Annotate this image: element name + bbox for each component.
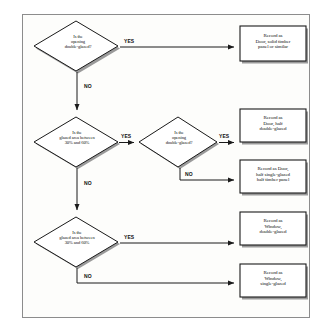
- edge-label-d1-no: NO: [84, 83, 92, 89]
- edge-label-d2-yes: YES: [121, 133, 131, 139]
- decision-label-d2: Is the glazed area between 30% and 60%: [30, 130, 124, 145]
- decision-line: 30% and 60%: [30, 140, 124, 145]
- result-line: double-glazed: [240, 229, 306, 235]
- result-label-r4: Record as Window, double-glazed: [240, 218, 306, 235]
- decision-label-d1: Is the opening double-glazed?: [36, 34, 120, 49]
- edge-label-d4-no: NO: [84, 273, 92, 279]
- result-label-r2: Record as Door, half double-glazed: [240, 115, 306, 132]
- result-line: double-glazed: [240, 126, 306, 132]
- result-line: half timber panel: [239, 177, 307, 183]
- decision-line: double-glazed?: [36, 44, 120, 49]
- decision-label-d3: Is the opening double-glazed?: [139, 130, 219, 145]
- result-label-r1: Record as Door, solid timber panel or si…: [240, 33, 306, 50]
- decision-label-d4: Is the glazed area between 30% and 60%: [30, 230, 124, 245]
- edge-label-d4-yes: YES: [124, 234, 134, 240]
- edge-d4-no: [77, 268, 234, 283]
- decision-line: 30% and 60%: [30, 240, 124, 245]
- result-label-r5: Record as Window, single-glazed: [240, 270, 306, 287]
- decision-line: double-glazed?: [139, 140, 219, 145]
- edge-label-d1-yes: YES: [124, 38, 134, 44]
- result-label-r3: Record as Door, half single-glazed half …: [239, 166, 307, 183]
- result-line: panel or similar: [240, 44, 306, 50]
- edge-label-d2-no: NO: [84, 180, 92, 186]
- edge-label-d3-yes: YES: [219, 133, 229, 139]
- edge-label-d3-no: NO: [185, 171, 193, 177]
- figure-page: Is the opening double-glazed? Is the gla…: [0, 0, 333, 335]
- result-line: single-glazed: [240, 281, 306, 287]
- result-nodes: [240, 26, 306, 297]
